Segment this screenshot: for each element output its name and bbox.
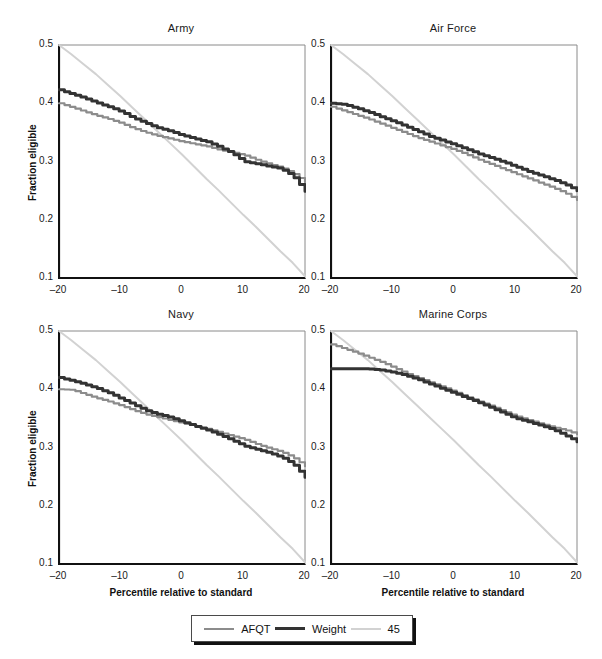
y-tick-label: 0.2 bbox=[285, 213, 325, 224]
x-tick-label: 0 bbox=[433, 570, 473, 581]
chart-legend: AFQTWeight45 bbox=[191, 615, 413, 642]
legend-label: AFQT bbox=[241, 623, 270, 635]
panel-title: Navy bbox=[58, 308, 304, 320]
series-line-afqt bbox=[59, 103, 305, 182]
plot-area bbox=[330, 44, 578, 279]
x-tick-label: 20 bbox=[556, 284, 596, 295]
series-line-weight bbox=[331, 103, 577, 190]
x-tick-label: 0 bbox=[161, 570, 201, 581]
series-line-weight bbox=[331, 369, 577, 442]
x-tick-label: 10 bbox=[223, 284, 263, 295]
y-tick-label: 0.1 bbox=[285, 557, 325, 568]
legend-line-swatch bbox=[351, 628, 381, 630]
x-tick-label: –10 bbox=[372, 284, 412, 295]
legend-line-swatch bbox=[204, 628, 234, 630]
plot-axis-lines bbox=[59, 45, 305, 278]
x-tick-label: –20 bbox=[310, 570, 350, 581]
plot-area bbox=[58, 44, 306, 279]
legend-item-45: 45 bbox=[351, 623, 400, 635]
series-line-afqt bbox=[331, 344, 577, 434]
panel-title: Marine Corps bbox=[330, 308, 576, 320]
x-tick-label: –10 bbox=[372, 570, 412, 581]
y-tick-label: 0.4 bbox=[285, 96, 325, 107]
series-line-afqt bbox=[59, 389, 305, 466]
x-tick-label: 0 bbox=[161, 284, 201, 295]
legend-label: Weight bbox=[312, 623, 346, 635]
legend-item-weight: Weight bbox=[275, 623, 346, 635]
x-tick-label: –20 bbox=[38, 570, 78, 581]
legend-item-afqt: AFQT bbox=[204, 623, 270, 635]
x-tick-label: –20 bbox=[38, 284, 78, 295]
y-tick-label: 0.1 bbox=[285, 271, 325, 282]
y-tick-label: 0.2 bbox=[13, 213, 53, 224]
series-line-45 bbox=[331, 331, 577, 562]
series-line-45 bbox=[331, 45, 577, 276]
y-axis-title: Fraction eligible bbox=[27, 124, 38, 201]
plot-axis-lines bbox=[331, 45, 577, 278]
x-tick-label: –10 bbox=[100, 284, 140, 295]
plot-frame-light bbox=[331, 331, 577, 564]
y-tick-label: 0.4 bbox=[13, 96, 53, 107]
panel-army: Army0.10.20.30.40.5–20–1001020Fraction e… bbox=[13, 22, 319, 315]
x-tick-label: 10 bbox=[495, 570, 535, 581]
x-axis-title: Percentile relative to standard bbox=[58, 587, 304, 598]
y-tick-label: 0.5 bbox=[13, 324, 53, 335]
y-axis-title: Fraction eligible bbox=[27, 410, 38, 487]
plot-axis-lines bbox=[331, 331, 577, 564]
y-tick-label: 0.5 bbox=[285, 38, 325, 49]
y-tick-label: 0.5 bbox=[285, 324, 325, 335]
x-tick-label: –10 bbox=[100, 570, 140, 581]
y-tick-label: 0.1 bbox=[13, 271, 53, 282]
y-tick-label: 0.4 bbox=[13, 382, 53, 393]
panel-navy: Navy0.10.20.30.40.5–20–1001020Fraction e… bbox=[13, 308, 319, 601]
x-tick-label: 10 bbox=[495, 284, 535, 295]
x-axis-title: Percentile relative to standard bbox=[330, 587, 576, 598]
legend-label: 45 bbox=[388, 623, 400, 635]
x-tick-label: 10 bbox=[223, 570, 263, 581]
legend-line-swatch bbox=[275, 627, 305, 630]
plot-area bbox=[330, 330, 578, 565]
plot-frame-light bbox=[331, 45, 577, 278]
plot-area bbox=[58, 330, 306, 565]
y-tick-label: 0.2 bbox=[13, 499, 53, 510]
panel-title: Air Force bbox=[330, 22, 576, 34]
y-tick-label: 0.2 bbox=[285, 499, 325, 510]
y-tick-label: 0.4 bbox=[285, 382, 325, 393]
plot-frame-light bbox=[59, 45, 305, 278]
panel-air-force: Air Force0.10.20.30.40.5–20–1001020 bbox=[285, 22, 591, 315]
y-tick-label: 0.3 bbox=[285, 441, 325, 452]
y-tick-label: 0.1 bbox=[13, 557, 53, 568]
panel-title: Army bbox=[58, 22, 304, 34]
x-tick-label: 0 bbox=[433, 284, 473, 295]
y-tick-label: 0.3 bbox=[285, 155, 325, 166]
series-line-45 bbox=[59, 45, 305, 276]
panel-marine-corps: Marine Corps0.10.20.30.40.5–20–1001020Pe… bbox=[285, 308, 591, 601]
x-tick-label: –20 bbox=[310, 284, 350, 295]
x-tick-label: 20 bbox=[556, 570, 596, 581]
figure-root: Army0.10.20.30.40.5–20–1001020Fraction e… bbox=[0, 0, 602, 659]
series-line-weight bbox=[59, 378, 305, 478]
y-tick-label: 0.5 bbox=[13, 38, 53, 49]
